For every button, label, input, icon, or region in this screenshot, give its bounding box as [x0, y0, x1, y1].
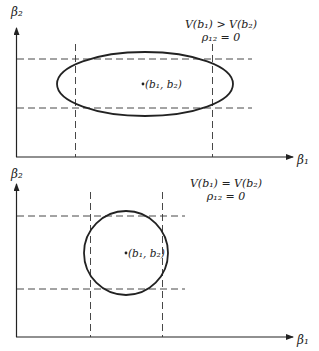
top-correlation-label: ρ₁₂ = 0 [201, 31, 241, 44]
top-diagram: β₂ β₁ (b₁, b₂) V(b₁) > V(b₂) ρ₁₂ = 0 [10, 5, 309, 167]
bottom-y-axis-label: β₂ [10, 167, 23, 181]
top-x-axis-label: β₁ [296, 153, 309, 167]
top-estimate-point [142, 83, 145, 86]
bottom-estimate-point [125, 252, 128, 255]
bottom-point-label: (b₁, b₂) [128, 247, 165, 259]
top-point-label: (b₁, b₂) [145, 78, 182, 90]
bottom-correlation-label: ρ₁₂ = 0 [206, 190, 246, 203]
bottom-diagram: β₂ β₁ (b₁, b₂) V(b₁) = V(b₂) ρ₁₂ = 0 [10, 167, 309, 347]
confidence-region-figure: β₂ β₁ (b₁, b₂) V(b₁) > V(b₂) ρ₁₂ = 0 β₂ … [0, 0, 319, 351]
top-y-axis-label: β₂ [10, 5, 23, 19]
bottom-x-axis-label: β₁ [296, 333, 309, 347]
top-condition-label: V(b₁) > V(b₂) [185, 18, 257, 31]
bottom-condition-label: V(b₁) = V(b₂) [190, 177, 262, 190]
